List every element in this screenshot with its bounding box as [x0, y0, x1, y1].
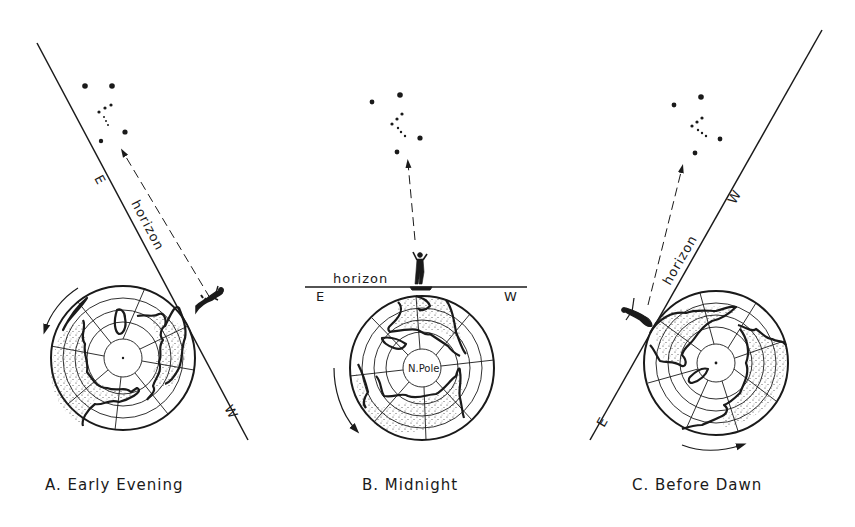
east-label: E — [91, 172, 109, 187]
sight-arrow — [648, 168, 682, 305]
star-cluster — [672, 94, 723, 155]
globe — [51, 286, 195, 430]
rotation-arrow — [682, 445, 742, 450]
panel-caption: A. Early Evening — [45, 476, 183, 494]
night-sky-diagram: E horizon W A. Early Evening — [0, 0, 855, 527]
panel-a: E horizon W A. Early Evening — [37, 43, 248, 494]
east-label: E — [594, 414, 612, 429]
observer-figure — [622, 298, 652, 327]
sight-arrow — [408, 163, 415, 240]
star-cluster — [370, 92, 423, 154]
east-label: E — [316, 289, 325, 304]
globe: N.Pole — [350, 296, 494, 440]
horizon-label: horizon — [660, 232, 701, 287]
star-cluster — [82, 83, 127, 143]
observer-figure — [196, 286, 224, 312]
sight-arrow — [123, 152, 210, 298]
panel-b: N.Pole horizon E W B. Midnight — [305, 92, 527, 494]
panel-caption: B. Midnight — [362, 476, 458, 494]
west-label: W — [504, 289, 518, 304]
panel-caption: C. Before Dawn — [632, 476, 762, 494]
horizon-label: horizon — [333, 271, 388, 286]
panel-c: E horizon W C. Before Dawn — [590, 30, 822, 494]
pole-label: N.Pole — [408, 363, 439, 374]
west-label: W — [221, 402, 241, 421]
west-label: W — [725, 187, 745, 207]
observer-figure — [410, 252, 432, 290]
globe — [644, 291, 788, 435]
